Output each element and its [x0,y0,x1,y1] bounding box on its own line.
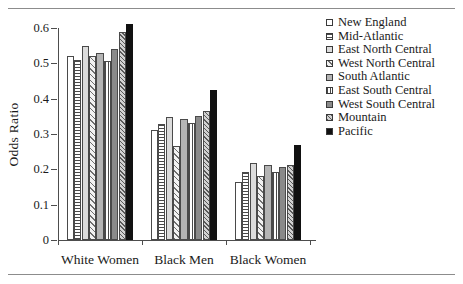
legend-swatch-icon [326,128,333,135]
y-axis-tick [51,205,57,206]
y-axis-tick-label: 0.3 [33,128,49,141]
y-axis-tick-label: 0.5 [33,57,49,70]
x-axis-group-label: White Women [61,252,139,268]
y-axis-title: Odds Ratio [6,28,22,241]
bar [173,146,180,240]
y-axis-tick-label: 0.1 [33,198,49,211]
y-axis-tick-label: 0.2 [33,163,49,176]
legend-item: Pacific [326,125,435,139]
y-axis-tick [51,63,57,64]
legend-item-label: South Atlantic [338,70,410,84]
bar [210,90,217,240]
x-axis-tick [58,240,59,245]
bar [180,119,187,240]
y-axis-tick [51,240,57,241]
legend-swatch-icon [326,87,333,94]
x-axis-group-label: Black Men [154,252,214,268]
legend-item: West North Central [326,57,435,71]
bar [158,124,165,240]
figure: Odds Ratio 00.10.20.30.40.50.6 White Wom… [0,0,463,284]
bottom-rule [8,274,455,275]
bar [67,56,74,240]
bar [151,130,158,240]
x-axis-tick [142,240,143,245]
legend-item: West South Central [326,98,435,112]
bar [96,53,103,240]
bar [188,123,195,240]
legend-item: Mid-Atlantic [326,30,435,44]
x-axis-tick [226,240,227,245]
bar [126,24,133,240]
legend-item-label: East South Central [338,84,432,98]
bar [89,56,96,240]
bar [287,165,294,240]
bar [235,182,242,240]
bar [272,172,279,240]
legend-item-label: Mid-Atlantic [338,30,403,44]
legend-item-label: West North Central [338,57,435,71]
legend-item: South Atlantic [326,70,435,84]
bar [111,49,118,240]
legend-item: Mountain [326,111,435,125]
bar [257,176,264,240]
legend-swatch-icon [326,74,333,81]
bar [294,145,301,240]
y-axis-tick [51,169,57,170]
legend-swatch-icon [326,19,333,26]
legend: New EnglandMid-AtlanticEast North Centra… [326,16,435,138]
legend-swatch-icon [326,33,333,40]
x-axis-group-label: Black Women [230,252,306,268]
bar [74,60,81,240]
legend-item-label: West South Central [338,98,435,112]
bar [264,165,271,240]
legend-item-label: Mountain [338,111,387,125]
y-axis-tick [51,134,57,135]
bar [82,46,89,240]
legend-item-label: East North Central [338,43,432,57]
bar [242,172,249,240]
bar [195,116,202,240]
legend-swatch-icon [326,46,333,53]
x-axis-line [58,240,316,241]
legend-swatch-icon [326,101,333,108]
bar [119,32,126,240]
y-axis-tick-label: 0 [43,234,49,247]
bar [250,163,257,240]
plot-area: 00.10.20.30.40.50.6 [58,28,310,240]
legend-item: New England [326,16,435,30]
y-axis-tick [51,99,57,100]
y-axis-tick [51,28,57,29]
legend-item: East North Central [326,43,435,57]
legend-item: East South Central [326,84,435,98]
bar [203,111,210,240]
legend-item-label: Pacific [338,125,373,139]
legend-swatch-icon [326,60,333,67]
bar [104,61,111,240]
y-axis-tick-label: 0.4 [33,92,49,105]
top-rule [8,8,455,9]
bar [279,167,286,240]
x-axis-tick [310,240,311,245]
y-axis-tick-label: 0.6 [33,22,49,35]
bar [166,117,173,240]
legend-item-label: New England [338,16,406,30]
legend-swatch-icon [326,114,333,121]
